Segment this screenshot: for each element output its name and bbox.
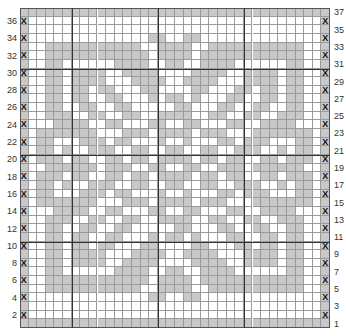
chart-cell (115, 86, 124, 95)
chart-cell (132, 285, 141, 294)
chart-cell (201, 51, 210, 60)
chart-cell (201, 242, 210, 251)
chart-cell (149, 103, 158, 112)
chart-cell (89, 259, 98, 268)
chart-cell (304, 120, 313, 129)
chart-cell (89, 120, 98, 129)
chart-cell (37, 311, 46, 320)
chart-cell (46, 34, 55, 43)
chart-cell (192, 267, 201, 276)
chart-cell (304, 77, 313, 86)
chart-cell (54, 276, 63, 285)
chart-cell (89, 17, 98, 26)
chart-cell (304, 60, 313, 69)
chart-cell (218, 146, 227, 155)
chart-cell (72, 77, 81, 86)
chart-cell (270, 155, 279, 164)
chart-cell (123, 120, 132, 129)
chart-cell (209, 69, 218, 78)
chart-cell (253, 224, 262, 233)
chart-cell (287, 43, 296, 52)
chart-cell (98, 164, 107, 173)
chart-cell (244, 51, 253, 60)
chart-cell (89, 250, 98, 259)
chart-cell (278, 146, 287, 155)
chart-cell (166, 293, 175, 302)
chart-cell (132, 69, 141, 78)
chart-cell (253, 302, 262, 311)
chart-cell (235, 190, 244, 199)
chart-cell (158, 172, 167, 181)
chart-cell (209, 233, 218, 242)
chart-cell (80, 146, 89, 155)
chart-cell (46, 60, 55, 69)
chart-cell (158, 164, 167, 173)
chart-cell (37, 267, 46, 276)
chart-cell (29, 302, 38, 311)
chart-cell (175, 120, 184, 129)
chart-cell (149, 129, 158, 138)
chart-cell (261, 69, 270, 78)
chart-cell (201, 34, 210, 43)
chart-cell (278, 302, 287, 311)
chart-cell (132, 94, 141, 103)
chart-cell (149, 60, 158, 69)
chart-cell (158, 17, 167, 26)
chart-cell (235, 120, 244, 129)
chart-cell (244, 216, 253, 225)
chart-cell (123, 60, 132, 69)
chart-cell (175, 198, 184, 207)
chart-cell (184, 293, 193, 302)
row-number-label: 34 (2, 33, 17, 43)
chart-cell (278, 250, 287, 259)
chart-cell (270, 103, 279, 112)
chart-cell (46, 259, 55, 268)
chart-cell (29, 155, 38, 164)
chart-cell (184, 276, 193, 285)
chart-cell (37, 198, 46, 207)
chart-cell (218, 285, 227, 294)
chart-cell (149, 94, 158, 103)
chart-cell (141, 250, 150, 259)
chart-cell (253, 155, 262, 164)
chart-cell (270, 198, 279, 207)
chart-cell (29, 86, 38, 95)
row-number-label: 32 (2, 51, 17, 61)
chart-cell (244, 69, 253, 78)
chart-cell (201, 120, 210, 129)
chart-cell (209, 17, 218, 26)
chart-cell (304, 94, 313, 103)
chart-cell (304, 216, 313, 225)
grid-major-line (20, 69, 330, 70)
chart-cell (158, 181, 167, 190)
chart-cell (29, 190, 38, 199)
chart-cell (296, 224, 305, 233)
chart-cell (253, 138, 262, 147)
chart-cell (149, 77, 158, 86)
chart-cell (54, 86, 63, 95)
chart-cell (227, 25, 236, 34)
chart-cell (141, 267, 150, 276)
chart-cell (235, 319, 244, 328)
chart-cell (141, 172, 150, 181)
chart-cell (227, 69, 236, 78)
chart-cell (253, 94, 262, 103)
chart-cell (253, 198, 262, 207)
chart-cell (115, 242, 124, 251)
chart-cell (80, 103, 89, 112)
chart-cell (209, 112, 218, 121)
chart-cell (46, 285, 55, 294)
chart-cell (218, 17, 227, 26)
chart-cell (106, 233, 115, 242)
chart-cell (235, 43, 244, 52)
row-number-label: 10 (2, 241, 17, 251)
chart-cell (132, 276, 141, 285)
chart-cell (166, 259, 175, 268)
chart-cell (287, 8, 296, 17)
chart-cell (287, 259, 296, 268)
row-number-label: 9 (334, 249, 339, 259)
chart-cell (304, 172, 313, 181)
chart-cell (89, 25, 98, 34)
chart-cell (72, 172, 81, 181)
chart-cell (296, 34, 305, 43)
